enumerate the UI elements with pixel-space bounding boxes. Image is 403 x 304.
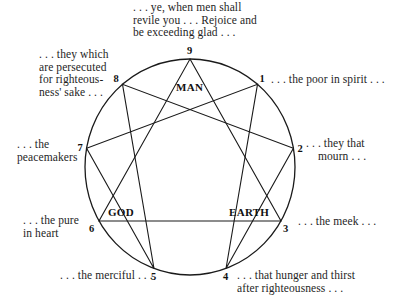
caption-point-8: . . . they which are persecuted for righ… [39,48,109,98]
point-number-3: 3 [283,223,288,234]
caption-point-2: . . . they that mourn . . . [306,137,366,162]
inner-hexad [87,84,294,268]
point-number-4: 4 [223,271,229,282]
caption-point-6: . . . the pure in heart [23,214,79,239]
caption-point-5: . . . the merciful . . . [60,269,153,282]
caption-point-4: . . . that hunger and thirst after right… [237,269,355,294]
caption-point-1: . . . the poor in spirit . . . [271,73,385,86]
point-number-7: 7 [78,142,83,153]
caption-point-7: . . . the peacemakers [17,138,77,163]
label-god: GOD [108,206,134,218]
label-man: MAN [176,81,203,93]
point-number-1: 1 [260,73,265,84]
caption-point-9: . . . ye, when men shall revile you . . … [133,1,257,39]
label-earth: EARTH [229,206,269,218]
point-number-6: 6 [89,223,94,234]
caption-point-3: . . . the meek . . . [298,215,376,228]
point-number-9: 9 [187,45,192,56]
point-number-8: 8 [114,73,119,84]
point-number-2: 2 [297,143,302,154]
